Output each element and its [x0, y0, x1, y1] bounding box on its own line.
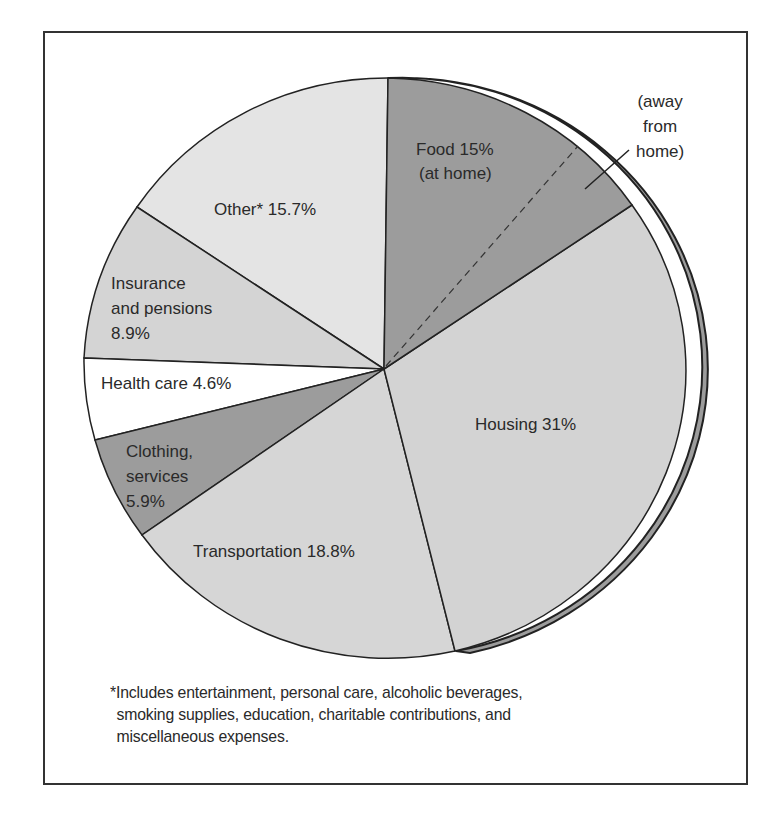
label-clothing: Clothing, services 5.9%	[126, 439, 193, 514]
label-away-line3: home)	[636, 139, 684, 164]
label-transportation: Transportation 18.8%	[193, 541, 355, 562]
label-housing: Housing 31%	[475, 414, 576, 435]
label-food-line1: Food 15%	[416, 138, 494, 162]
label-clothing-line1: Clothing,	[126, 439, 193, 464]
label-insurance: Insurance and pensions 8.9%	[111, 271, 212, 346]
label-insurance-line2: and pensions	[111, 296, 212, 321]
label-away-line2: from	[636, 114, 684, 139]
label-clothing-line2: services	[126, 464, 193, 489]
footnote-line-1: *Includes entertainment, personal care, …	[110, 682, 522, 704]
label-insurance-line3: 8.9%	[111, 321, 212, 346]
label-health-care: Health care 4.6%	[101, 373, 231, 394]
footnote: *Includes entertainment, personal care, …	[110, 682, 522, 748]
label-food: Food 15% (at home)	[416, 138, 494, 186]
label-insurance-line1: Insurance	[111, 271, 212, 296]
label-away-from-home: (away from home)	[636, 89, 684, 164]
footnote-line-3: miscellaneous expenses.	[110, 726, 522, 748]
label-clothing-line3: 5.9%	[126, 489, 193, 514]
footnote-line-2: smoking supplies, education, charitable …	[110, 704, 522, 726]
label-food-line2: (at home)	[416, 162, 494, 186]
label-other: Other* 15.7%	[214, 199, 316, 220]
label-away-line1: (away	[636, 89, 684, 114]
